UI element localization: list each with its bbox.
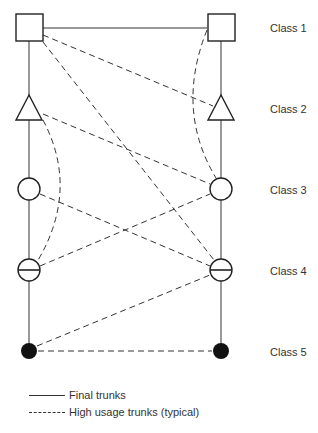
class3-left-circle-icon	[18, 178, 40, 200]
class1-left-square-icon	[16, 14, 43, 41]
class2-right-triangle-icon	[208, 95, 234, 120]
class3-right-circle-icon	[210, 178, 232, 200]
legend-high-usage-trunks: High usage trunks (typical)	[29, 406, 199, 418]
class5-right-filled-circle-icon	[213, 343, 229, 359]
high-usage-trunk-R1-R3-curved	[193, 30, 216, 178]
high-usage-trunk-L2-R3	[43, 114, 210, 184]
class-1-label: Class 1	[270, 22, 307, 34]
legend-final-trunks-label: Final trunks	[69, 389, 126, 401]
class-3-label: Class 3	[270, 184, 307, 196]
class-5-label: Class 5	[270, 346, 307, 358]
class-4-label: Class 4	[270, 265, 307, 277]
legend-high-usage-trunks-label: High usage trunks (typical)	[69, 406, 199, 418]
high-usage-trunk-L1-R4	[43, 42, 214, 260]
solid-line-swatch	[29, 395, 65, 396]
legend-final-trunks: Final trunks	[29, 389, 126, 401]
class5-left-filled-circle-icon	[21, 343, 37, 359]
dashed-line-swatch	[29, 412, 65, 413]
class-2-label: Class 2	[270, 103, 307, 115]
high-usage-trunk-L5-R4	[37, 275, 210, 346]
trunk-hierarchy-diagram	[0, 0, 318, 433]
high-usage-trunk-L4-R3	[40, 194, 210, 266]
high-usage-trunk-L1-R2	[43, 35, 213, 106]
class2-left-triangle-icon	[16, 95, 42, 120]
class1-right-square-icon	[208, 14, 235, 41]
